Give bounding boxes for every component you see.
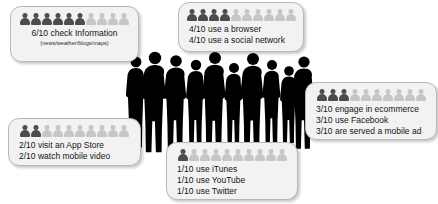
pictogram-row xyxy=(186,9,296,21)
stat-lines: 2/10 visit an App Store 2/10 watch mobil… xyxy=(16,140,133,162)
person-icon xyxy=(361,89,371,101)
stat-line: 4/10 use a browser xyxy=(189,24,296,35)
stat-line: 6/10 check Information xyxy=(18,28,131,39)
person-icon xyxy=(266,149,276,161)
stat-card-appstore-video[interactable]: 2/10 visit an App Store 2/10 watch mobil… xyxy=(8,118,141,166)
person-icon xyxy=(75,13,85,25)
person-icon xyxy=(97,125,107,137)
person-icon xyxy=(31,13,41,25)
person-icon xyxy=(277,149,287,161)
stat-line: 4/10 use a social network xyxy=(189,35,296,46)
person-icon xyxy=(416,89,426,101)
person-icon xyxy=(231,9,241,21)
person-icon xyxy=(20,13,30,25)
person-icon xyxy=(339,89,349,101)
stat-lines: 4/10 use a browser 4/10 use a social net… xyxy=(186,24,296,46)
person-icon xyxy=(119,125,129,137)
person-icon xyxy=(383,89,393,101)
person-icon xyxy=(108,125,118,137)
person-icon xyxy=(264,9,274,21)
person-icon xyxy=(53,125,63,137)
stat-lines: 3/10 engage in ecommerce 3/10 use Facebo… xyxy=(313,104,429,137)
person-icon xyxy=(222,149,232,161)
stat-line: 3/10 use Facebook xyxy=(316,115,429,126)
infographic-canvas: 6/10 check Information (news/weather/blo… xyxy=(0,0,438,204)
person-icon xyxy=(220,9,230,21)
person-icon xyxy=(119,13,129,25)
person-icon xyxy=(53,13,63,25)
pictogram-row xyxy=(174,149,290,161)
person-icon xyxy=(372,89,382,101)
person-icon xyxy=(42,13,52,25)
person-icon xyxy=(328,89,338,101)
stat-line: 3/10 are served a mobile ad xyxy=(316,126,429,137)
person-icon xyxy=(97,13,107,25)
stat-line: 1/10 use Twitter xyxy=(177,186,290,197)
stat-card-check-information[interactable]: 6/10 check Information (news/weather/blo… xyxy=(10,6,139,62)
person-icon xyxy=(253,9,263,21)
person-icon xyxy=(242,9,252,21)
person-icon xyxy=(394,89,404,101)
person-icon xyxy=(286,9,296,21)
stat-card-browser-social[interactable]: 4/10 use a browser 4/10 use a social net… xyxy=(178,2,304,52)
pictogram-row xyxy=(313,89,429,101)
stat-lines: 1/10 use iTunes 1/10 use YouTube 1/10 us… xyxy=(174,164,290,197)
stat-line: 1/10 use YouTube xyxy=(177,175,290,186)
person-icon xyxy=(64,125,74,137)
stat-line: 3/10 engage in ecommerce xyxy=(316,104,429,115)
person-icon xyxy=(200,149,210,161)
person-icon xyxy=(86,13,96,25)
stat-lines: 6/10 check Information (news/weather/blo… xyxy=(18,28,131,48)
person-icon xyxy=(187,9,197,21)
person-icon xyxy=(108,13,118,25)
person-icon xyxy=(75,125,85,137)
person-icon xyxy=(350,89,360,101)
person-icon xyxy=(189,149,199,161)
person-icon xyxy=(233,149,243,161)
person-icon xyxy=(317,89,327,101)
person-icon xyxy=(275,9,285,21)
stat-card-itunes-youtube-twitter[interactable]: 1/10 use iTunes 1/10 use YouTube 1/10 us… xyxy=(166,142,298,200)
person-icon xyxy=(405,89,415,101)
person-icon xyxy=(211,149,221,161)
person-icon xyxy=(209,9,219,21)
person-icon xyxy=(42,125,52,137)
person-icon xyxy=(86,125,96,137)
stat-line: 2/10 visit an App Store xyxy=(19,140,133,151)
pictogram-row xyxy=(16,125,133,137)
person-icon xyxy=(20,125,30,137)
person-icon xyxy=(244,149,254,161)
stat-line: 2/10 watch mobile video xyxy=(19,151,133,162)
person-icon xyxy=(31,125,41,137)
person-icon xyxy=(198,9,208,21)
person-icon xyxy=(255,149,265,161)
stat-line: 1/10 use iTunes xyxy=(177,164,290,175)
stat-subtext: (news/weather/blogs/maps) xyxy=(18,39,131,48)
person-icon xyxy=(178,149,188,161)
stat-card-ecommerce-facebook-ads[interactable]: 3/10 engage in ecommerce 3/10 use Facebo… xyxy=(305,82,437,140)
pictogram-row xyxy=(18,13,131,25)
person-icon xyxy=(64,13,74,25)
